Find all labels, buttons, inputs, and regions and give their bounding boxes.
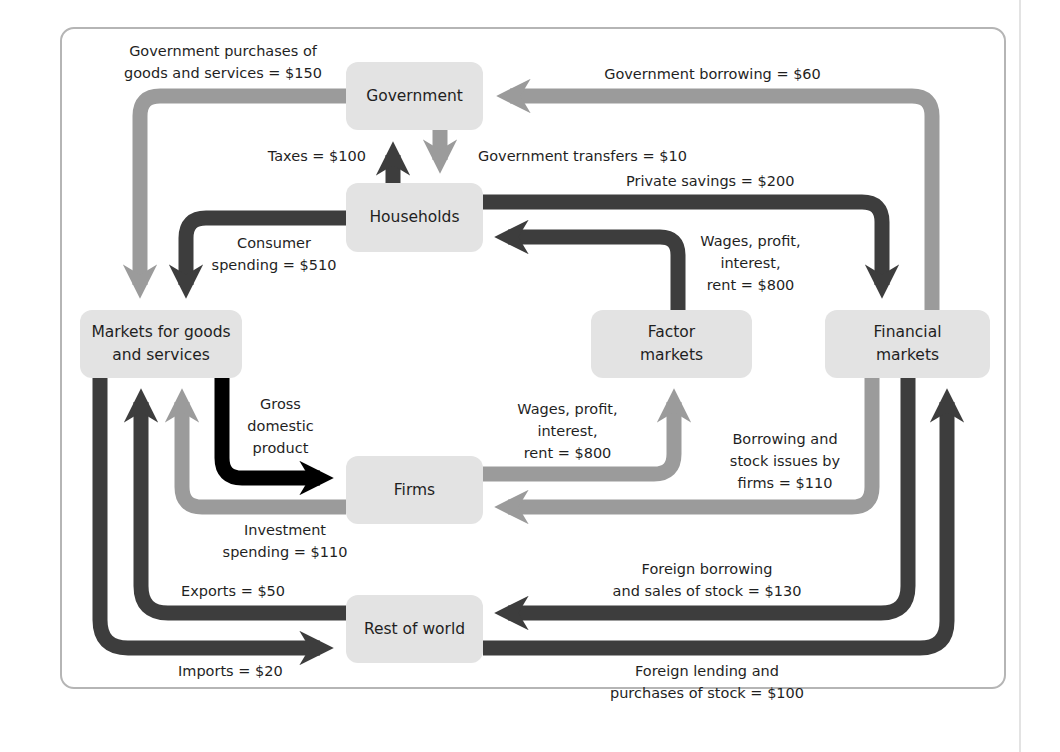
node-firms: Firms [346, 456, 483, 524]
label-wages-from-firms: Wages, profit, interest, rent = $800 [505, 398, 630, 464]
label-consumer-spending: Consumer spending = $510 [204, 232, 344, 276]
arrow-wages-to-households [508, 237, 678, 310]
node-markets-label: Markets for goods and services [91, 321, 230, 367]
label-borrowing-firms: Borrowing and stock issues by firms = $1… [720, 428, 850, 494]
node-households-label: Households [369, 206, 459, 229]
label-investment-spending: Investment spending = $110 [210, 519, 360, 563]
label-foreign-lending: Foreign lending and purchases of stock =… [592, 660, 822, 704]
label-wages-to-households: Wages, profit, interest, rent = $800 [688, 230, 813, 296]
label-exports: Exports = $50 [181, 580, 285, 602]
node-households: Households [346, 183, 483, 252]
node-financial-markets-label: Financial markets [874, 321, 942, 367]
label-gov-borrowing: Government borrowing = $60 [590, 63, 835, 85]
label-gov-transfers: Government transfers = $10 [478, 145, 687, 167]
label-imports: Imports = $20 [178, 660, 283, 682]
label-taxes: Taxes = $100 [236, 145, 366, 167]
node-government-label: Government [366, 85, 463, 108]
label-foreign-borrowing: Foreign borrowing and sales of stock = $… [592, 558, 822, 602]
label-gov-purchases: Government purchases of goods and servic… [108, 40, 338, 84]
node-factor-markets: Factor markets [591, 310, 752, 378]
node-rest-of-world: Rest of world [346, 595, 483, 663]
node-factor-markets-label: Factor markets [640, 321, 703, 367]
node-financial-markets: Financial markets [825, 310, 990, 378]
node-government: Government [346, 62, 483, 130]
node-rest-of-world-label: Rest of world [364, 618, 465, 641]
label-private-savings: Private savings = $200 [626, 170, 794, 192]
label-gdp: Gross domestic product [238, 393, 323, 459]
node-firms-label: Firms [394, 479, 435, 502]
node-markets-goods-services: Markets for goods and services [80, 310, 242, 378]
